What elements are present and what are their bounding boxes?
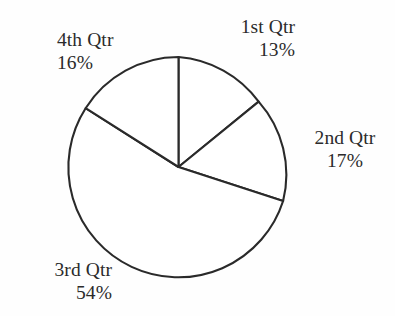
pie-label-1st-qtr-name: 1st Qtr bbox=[198, 15, 295, 38]
pie-chart-figure: 4th Qtr 16% 1st Qtr 13% 2nd Qtr 17% 3rd … bbox=[0, 0, 395, 316]
pie-label-4th-qtr: 4th Qtr 16% bbox=[57, 28, 114, 74]
pie-label-3rd-qtr-name: 3rd Qtr bbox=[20, 258, 112, 281]
pie-label-3rd-qtr-value: 54% bbox=[20, 281, 112, 304]
pie-label-4th-qtr-name: 4th Qtr bbox=[57, 28, 114, 51]
pie-label-1st-qtr-value: 13% bbox=[198, 38, 295, 61]
pie-label-1st-qtr: 1st Qtr 13% bbox=[198, 15, 295, 61]
pie-label-2nd-qtr-value: 17% bbox=[299, 149, 391, 172]
pie-label-2nd-qtr: 2nd Qtr 17% bbox=[299, 126, 391, 172]
pie-label-4th-qtr-value: 16% bbox=[57, 51, 114, 74]
pie-label-2nd-qtr-name: 2nd Qtr bbox=[299, 126, 391, 149]
pie-label-3rd-qtr: 3rd Qtr 54% bbox=[20, 258, 112, 304]
